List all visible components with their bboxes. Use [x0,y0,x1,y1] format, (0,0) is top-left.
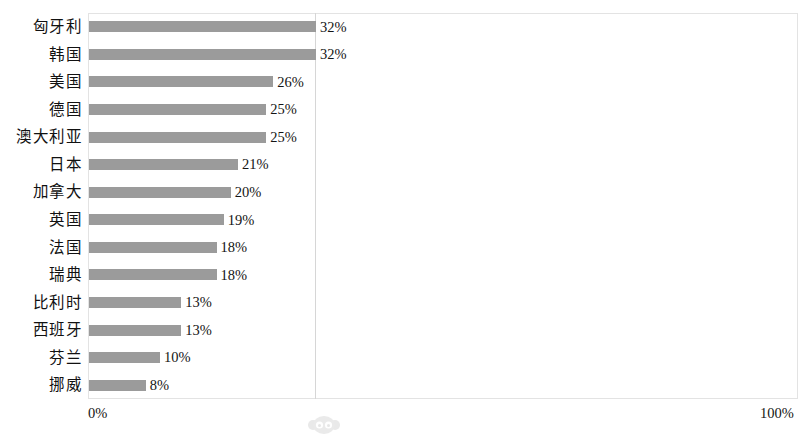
bar-container: 13% [89,316,212,344]
category-label: 德国 [0,102,82,118]
category-label: 美国 [0,74,82,90]
category-label: 法国 [0,240,82,256]
bar [89,297,181,308]
bar [89,104,266,115]
table-row: 匈牙利32% [0,13,804,41]
bar [89,269,217,280]
bar-value-label: 21% [242,157,269,172]
table-row: 比利时13% [0,289,804,317]
bar [89,49,316,60]
bar-value-label: 20% [235,185,262,200]
bar-container: 19% [89,206,254,234]
bar [89,132,266,143]
table-row: 西班牙13% [0,316,804,344]
category-label: 韩国 [0,47,82,63]
bar-container: 10% [89,344,190,372]
table-row: 挪威8% [0,371,804,399]
bar-value-label: 25% [270,130,297,145]
bar-container: 26% [89,68,304,96]
bar [89,380,146,391]
category-label: 瑞典 [0,267,82,283]
bar-value-label: 13% [185,295,212,310]
table-row: 瑞典18% [0,261,804,289]
bar-value-label: 8% [150,378,169,393]
bar-value-label: 19% [228,213,255,228]
bar-chart: 匈牙利32%韩国32%美国26%德国25%澳大利亚25%日本21%加拿大20%英… [0,0,804,434]
bar-rows: 匈牙利32%韩国32%美国26%德国25%澳大利亚25%日本21%加拿大20%英… [0,13,804,399]
bar [89,21,316,32]
table-row: 日本21% [0,151,804,179]
bar-container: 32% [89,41,346,69]
bar [89,159,238,170]
category-label: 英国 [0,212,82,228]
category-label: 日本 [0,157,82,173]
bar [89,325,181,336]
category-label: 匈牙利 [0,19,82,35]
bar-container: 32% [89,13,346,41]
bar-container: 20% [89,178,261,206]
bar-container: 18% [89,234,247,262]
bar-container: 25% [89,96,297,124]
bar-value-label: 18% [221,268,248,283]
bar-value-label: 13% [185,323,212,338]
table-row: 德国25% [0,96,804,124]
bar-value-label: 10% [164,350,191,365]
table-row: 美国26% [0,68,804,96]
category-label: 芬兰 [0,350,82,366]
bar-container: 8% [89,371,169,399]
category-label: 比利时 [0,295,82,311]
category-label: 西班牙 [0,322,82,338]
bar-value-label: 18% [221,240,248,255]
category-label: 加拿大 [0,184,82,200]
bar [89,187,231,198]
bar-container: 18% [89,261,247,289]
table-row: 法国18% [0,234,804,262]
category-label: 挪威 [0,377,82,393]
bar-value-label: 26% [277,75,304,90]
table-row: 加拿大20% [0,178,804,206]
table-row: 澳大利亚25% [0,123,804,151]
table-row: 芬兰10% [0,344,804,372]
bar-container: 13% [89,289,212,317]
bar [89,352,160,363]
table-row: 英国19% [0,206,804,234]
table-row: 韩国32% [0,41,804,69]
bar-value-label: 32% [320,20,347,35]
bar [89,242,217,253]
category-label: 澳大利亚 [0,129,82,145]
bar-container: 25% [89,123,297,151]
bar-value-label: 32% [320,47,347,62]
bar [89,76,273,87]
monkey-face-watermark [307,414,341,434]
bar [89,214,224,225]
axis-tick-max: 100% [760,406,794,421]
bar-value-label: 25% [270,102,297,117]
bar-container: 21% [89,151,268,179]
axis-tick-min: 0% [88,406,107,421]
